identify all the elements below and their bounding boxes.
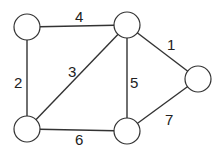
weight-b-d: 3 (68, 63, 76, 80)
weight-b-e: 5 (130, 74, 138, 91)
node-b (114, 12, 140, 38)
edge-a-b (27, 25, 127, 27)
weight-d-e: 6 (75, 131, 83, 148)
node-e (114, 118, 140, 144)
weight-a-b: 4 (75, 8, 83, 25)
weight-a-d: 2 (14, 74, 22, 91)
node-a (14, 14, 40, 40)
nodes (14, 12, 211, 144)
graph-diagram: 4 2 3 5 1 6 7 (0, 0, 223, 152)
node-d (14, 116, 40, 142)
node-c (185, 66, 211, 92)
weight-e-c: 7 (165, 111, 173, 128)
weight-b-c: 1 (167, 36, 175, 53)
edge-b-d (27, 25, 127, 129)
